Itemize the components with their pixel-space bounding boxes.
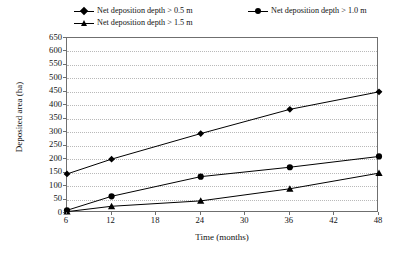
x-tick-label: 18 bbox=[140, 215, 170, 225]
y-tick-label: 650 bbox=[28, 33, 62, 42]
y-tick-label: 400 bbox=[28, 100, 62, 109]
y-axis-title: Deposited area (ha) bbox=[14, 42, 24, 192]
y-tick-label: 500 bbox=[28, 73, 62, 82]
series-0 bbox=[64, 88, 383, 177]
legend-marker-triangle-icon bbox=[74, 18, 94, 28]
legend-label-2: Net deposition depth > 1.5 m bbox=[97, 18, 193, 28]
x-tick-label: 6 bbox=[51, 215, 81, 225]
y-tick-label: 150 bbox=[28, 167, 62, 176]
series-layer bbox=[67, 38, 379, 213]
x-tick-label: 12 bbox=[96, 215, 126, 225]
x-tick-label: 36 bbox=[274, 215, 304, 225]
y-tick-label: 450 bbox=[28, 86, 62, 95]
data-point-marker bbox=[108, 193, 114, 199]
data-point-marker bbox=[197, 130, 204, 137]
x-tick-label: 42 bbox=[318, 215, 348, 225]
y-tick-label: 100 bbox=[28, 181, 62, 190]
y-tick-label: 50 bbox=[28, 194, 62, 203]
x-tick-label: 30 bbox=[229, 215, 259, 225]
data-point-marker bbox=[198, 174, 204, 180]
legend-label-0: Net deposition depth > 0.5 m bbox=[97, 6, 193, 16]
series-line bbox=[67, 173, 379, 212]
chart-figure: Net deposition depth > 0.5 m Net deposit… bbox=[0, 0, 404, 260]
legend-marker-circle-icon bbox=[248, 6, 268, 16]
data-point-marker bbox=[108, 156, 115, 163]
series-line bbox=[67, 156, 379, 210]
data-point-marker bbox=[376, 153, 382, 159]
chart-legend: Net deposition depth > 0.5 m Net deposit… bbox=[62, 6, 398, 34]
data-point-marker bbox=[376, 88, 383, 95]
series-2 bbox=[63, 170, 382, 215]
x-tick-label: 48 bbox=[363, 215, 393, 225]
y-tick-label: 250 bbox=[28, 140, 62, 149]
plot-area bbox=[66, 37, 378, 212]
legend-entry-1[interactable]: Net deposition depth > 1.0 m bbox=[248, 6, 367, 16]
legend-entry-0[interactable]: Net deposition depth > 0.5 m bbox=[74, 6, 193, 16]
y-tick-label: 600 bbox=[28, 46, 62, 55]
data-point-marker bbox=[375, 170, 382, 177]
page-artifact-text bbox=[12, 251, 312, 258]
x-tick-label: 24 bbox=[185, 215, 215, 225]
y-tick-label: 300 bbox=[28, 127, 62, 136]
y-tick-label: 550 bbox=[28, 59, 62, 68]
data-point-marker bbox=[286, 106, 293, 113]
legend-label-1: Net deposition depth > 1.0 m bbox=[271, 6, 367, 16]
x-axis-title: Time (months) bbox=[66, 232, 378, 242]
y-tick-label: 350 bbox=[28, 113, 62, 122]
legend-entry-2[interactable]: Net deposition depth > 1.5 m bbox=[74, 18, 193, 28]
legend-marker-diamond-icon bbox=[74, 6, 94, 16]
data-point-marker bbox=[287, 164, 293, 170]
y-tick-label: 200 bbox=[28, 154, 62, 163]
